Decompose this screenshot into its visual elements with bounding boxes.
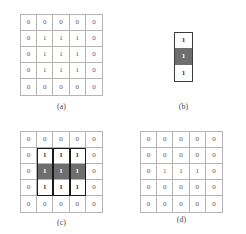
caption-b: (b)	[155, 103, 212, 111]
grid-cell: 0	[157, 132, 173, 148]
grid-cell: 1	[37, 180, 53, 196]
grid-cell: 0	[86, 180, 102, 196]
grid-cell: 0	[190, 148, 206, 164]
grid-cell: 0	[70, 15, 86, 31]
grid-cell: 0	[86, 63, 102, 79]
caption-a: (a)	[20, 103, 103, 111]
grid-cell: 1	[53, 148, 69, 164]
grid-cell: 0	[206, 196, 222, 212]
grid-cell: 0	[157, 148, 173, 164]
grid-cell: 0	[53, 79, 69, 95]
grid-cell: 0	[21, 15, 37, 31]
panel-c-se-placements: 0000001110011100111000000	[20, 131, 103, 213]
grid-cell: 0	[70, 79, 86, 95]
grid-cell: 0	[21, 31, 37, 47]
grid-cell: 0	[53, 196, 69, 212]
grid-cell: 0	[206, 148, 222, 164]
grid-cell: 0	[21, 164, 37, 180]
grid-cell: 1	[37, 63, 53, 79]
grid-cell: 0	[37, 15, 53, 31]
grid-cell: 0	[86, 148, 102, 164]
grid-cell: 1	[157, 164, 173, 180]
erosion-figure: 0000001110011100111000000 (a) 111 (b) 00…	[0, 0, 246, 234]
grid-cell: 0	[21, 47, 37, 63]
grid-cell: 0	[37, 196, 53, 212]
grid-cell: 0	[21, 63, 37, 79]
grid-cell: 1	[37, 31, 53, 47]
grid-cell: 0	[21, 79, 37, 95]
grid-cell: 1	[190, 164, 206, 180]
grid-cell: 0	[141, 196, 157, 212]
grid-cell: 0	[173, 180, 189, 196]
grid-cell: 1	[37, 148, 53, 164]
grid-erosion-result: 0000000000011100000000000	[140, 131, 223, 213]
grid-cell: 0	[190, 196, 206, 212]
structuring-element: 111	[174, 32, 193, 82]
grid-cell: 0	[206, 164, 222, 180]
se-origin-cell: 1	[175, 49, 192, 65]
grid-cell: 1	[53, 164, 69, 180]
grid-cell: 1	[53, 47, 69, 63]
grid-cell: 0	[157, 196, 173, 212]
grid-cell: 1	[70, 148, 86, 164]
caption-d: (d)	[140, 216, 223, 224]
grid-cell: 0	[70, 196, 86, 212]
grid-cell: 0	[86, 132, 102, 148]
grid-cell: 1	[53, 63, 69, 79]
grid-cell: 1	[70, 180, 86, 196]
panel-a-input-image: 0000001110011100111000000	[20, 14, 103, 96]
grid-cell: 0	[190, 132, 206, 148]
grid-cell: 0	[206, 180, 222, 196]
grid-cell: 1	[53, 31, 69, 47]
grid-cell: 0	[86, 47, 102, 63]
grid-cell: 0	[157, 180, 173, 196]
grid-cell: 0	[141, 164, 157, 180]
grid-cell: 0	[173, 148, 189, 164]
grid-cell: 0	[37, 132, 53, 148]
panel-d-erosion-result: 0000000000011100000000000	[140, 131, 223, 213]
grid-cell: 1	[173, 164, 189, 180]
grid-cell: 0	[21, 196, 37, 212]
grid-cell: 0	[86, 31, 102, 47]
grid-cell: 1	[53, 180, 69, 196]
grid-cell: 0	[141, 148, 157, 164]
grid-cell: 0	[173, 196, 189, 212]
grid-cell: 0	[190, 180, 206, 196]
grid-cell: 0	[86, 79, 102, 95]
grid-cell: 0	[21, 180, 37, 196]
grid-cell: 0	[141, 180, 157, 196]
grid-cell: 0	[37, 79, 53, 95]
grid-cell: 0	[70, 132, 86, 148]
grid-cell: 1	[70, 63, 86, 79]
grid-cell: 1	[37, 164, 53, 180]
grid-cell: 1	[70, 31, 86, 47]
grid-cell: 0	[173, 132, 189, 148]
se-cell: 1	[175, 65, 192, 81]
grid-cell: 0	[21, 132, 37, 148]
grid-cell: 0	[53, 132, 69, 148]
caption-c: (c)	[20, 219, 103, 227]
grid-cell: 1	[37, 47, 53, 63]
se-cell: 1	[175, 33, 192, 49]
panel-b-structuring-element: 111	[174, 32, 193, 82]
grid-input-image: 0000001110011100111000000	[20, 14, 103, 96]
grid-cell: 1	[70, 47, 86, 63]
grid-se-placements: 0000001110011100111000000	[20, 131, 103, 213]
grid-cell: 0	[53, 15, 69, 31]
grid-cell: 0	[86, 196, 102, 212]
grid-cell: 0	[141, 132, 157, 148]
grid-cell: 0	[86, 15, 102, 31]
grid-cell: 0	[21, 148, 37, 164]
grid-cell: 1	[70, 164, 86, 180]
grid-cell: 0	[206, 132, 222, 148]
grid-cell: 0	[86, 164, 102, 180]
